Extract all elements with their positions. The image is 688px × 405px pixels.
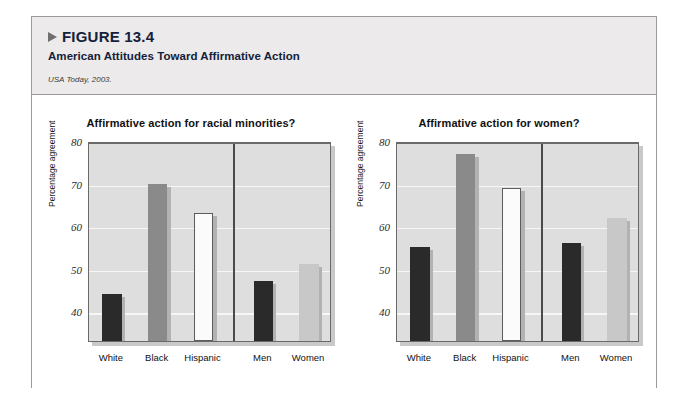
group-divider bbox=[233, 143, 234, 341]
group-divider bbox=[541, 143, 542, 341]
chart-title: Affirmative action for racial minorities… bbox=[41, 117, 341, 129]
x-tick-label-white: White bbox=[99, 352, 123, 363]
figure-frame: FIGURE 13.4 American Attitudes Toward Af… bbox=[31, 16, 657, 388]
bar-women bbox=[299, 264, 318, 341]
y-axis-label: Percentage agreement bbox=[47, 121, 57, 207]
x-tick-label-black: Black bbox=[145, 352, 168, 363]
x-tick-label-white: White bbox=[407, 352, 431, 363]
y-tick-label: 70 bbox=[42, 179, 82, 191]
bar-men bbox=[254, 281, 273, 341]
bar-hispanic bbox=[194, 213, 213, 341]
plot-area bbox=[88, 142, 331, 342]
y-tick-label: 60 bbox=[42, 221, 82, 233]
y-tick-label: 50 bbox=[42, 264, 82, 276]
bar-white bbox=[410, 247, 429, 341]
axis-top-line bbox=[89, 143, 330, 144]
figure-number: FIGURE 13.4 bbox=[62, 28, 154, 45]
gridline bbox=[89, 186, 330, 187]
bar-men bbox=[562, 243, 581, 341]
x-tick-label-women: Women bbox=[292, 352, 325, 363]
y-tick-label: 50 bbox=[350, 264, 390, 276]
chart-title: Affirmative action for women? bbox=[349, 117, 649, 129]
y-tick-label: 60 bbox=[350, 221, 390, 233]
chart-racial-minorities: Affirmative action for racial minorities… bbox=[41, 95, 341, 388]
y-tick-label: 70 bbox=[350, 179, 390, 191]
x-tick-label-hispanic: Hispanic bbox=[184, 352, 220, 363]
x-tick-label-men: Men bbox=[253, 352, 271, 363]
y-tick-label: 40 bbox=[42, 306, 82, 318]
x-tick-label-black: Black bbox=[453, 352, 476, 363]
x-tick-label-women: Women bbox=[600, 352, 633, 363]
y-tick-label: 40 bbox=[350, 306, 390, 318]
bar-women bbox=[607, 218, 626, 341]
axis-top-line bbox=[397, 143, 638, 144]
figure-title: American Attitudes Toward Affirmative Ac… bbox=[48, 50, 300, 62]
gridline bbox=[397, 186, 638, 187]
charts-region: Affirmative action for racial minorities… bbox=[32, 95, 656, 388]
chart-women: Affirmative action for women?Percentage … bbox=[349, 95, 649, 388]
figure-source: USA Today, 2003. bbox=[48, 75, 112, 84]
bar-hispanic bbox=[502, 188, 521, 341]
x-tick-label-hispanic: Hispanic bbox=[492, 352, 528, 363]
x-tick-label-men: Men bbox=[561, 352, 579, 363]
y-tick-label: 80 bbox=[350, 136, 390, 148]
y-axis-label: Percentage agreement bbox=[355, 121, 365, 207]
bar-black bbox=[148, 184, 167, 341]
plot-inner bbox=[89, 143, 330, 341]
y-tick-label: 80 bbox=[42, 136, 82, 148]
bar-white bbox=[102, 294, 121, 341]
plot-area bbox=[396, 142, 639, 342]
plot-inner bbox=[397, 143, 638, 341]
bar-black bbox=[456, 154, 475, 341]
figure-header: FIGURE 13.4 American Attitudes Toward Af… bbox=[32, 17, 656, 95]
triangle-right-icon bbox=[48, 32, 57, 42]
figure-label-row: FIGURE 13.4 bbox=[48, 28, 154, 45]
